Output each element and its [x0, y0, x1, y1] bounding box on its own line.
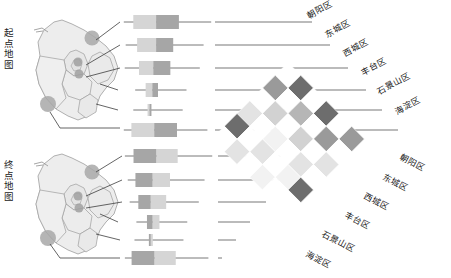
od-matrix: [0, 0, 451, 278]
figure-canvas: 起点地图 终点地图: [0, 0, 451, 278]
matrix-cells: [212, 63, 365, 216]
